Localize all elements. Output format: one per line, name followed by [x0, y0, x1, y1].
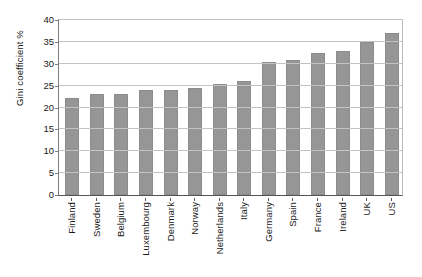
gridline [59, 150, 402, 151]
y-axis-tick-mark [55, 108, 58, 109]
y-axis-tick-label: 0 [14, 189, 54, 200]
x-label-slot: Belgium [108, 198, 133, 276]
gridline [59, 107, 402, 108]
x-label-slot: France [305, 198, 330, 276]
y-axis-tick-label: 15 [14, 123, 54, 134]
x-axis-tick-mark [391, 198, 392, 201]
bar [90, 94, 104, 195]
y-axis-tick-label: 10 [14, 145, 54, 156]
bar [65, 98, 79, 195]
y-axis-tick-mark [55, 173, 58, 174]
y-axis-tick-mark [55, 151, 58, 152]
bar [213, 84, 227, 195]
x-label-slot: Italy [231, 198, 256, 276]
x-axis-tick-mark [194, 198, 195, 201]
x-axis-tick-label: Belgium [115, 202, 126, 237]
y-axis-tick-mark [55, 195, 58, 196]
x-axis-tick-mark [145, 198, 146, 201]
bar [237, 81, 251, 195]
y-axis-tick-label: 25 [14, 80, 54, 91]
x-axis-tick-mark [366, 198, 367, 201]
x-axis-tick-label: Norway [189, 202, 200, 235]
bar [164, 90, 178, 195]
bar [311, 53, 325, 195]
x-label-slot: Sweden [84, 198, 109, 276]
x-axis-tick-mark [219, 198, 220, 201]
x-label-slot: Spain [280, 198, 305, 276]
x-label-slot: Ireland [329, 198, 354, 276]
x-axis-tick-label: Denmark [164, 202, 175, 241]
x-axis-tick-label: Germany [262, 202, 273, 242]
x-axis-tick-mark [96, 198, 97, 201]
x-label-slot: Finland [59, 198, 84, 276]
gridline [59, 41, 402, 42]
x-axis-tick-mark [342, 198, 343, 201]
y-axis-tick-label: 35 [14, 36, 54, 47]
x-axis-tick-label: Ireland [336, 202, 347, 232]
x-axis-tick-mark [292, 198, 293, 201]
y-axis-tick-label: 20 [14, 102, 54, 113]
x-axis-tick-mark [170, 198, 171, 201]
bar [114, 94, 128, 195]
x-axis-tick-mark [243, 198, 244, 201]
gridline [59, 85, 402, 86]
x-label-slot: UK [354, 198, 379, 276]
y-axis-tick-label: 5 [14, 167, 54, 178]
y-axis-tick-label: 40 [14, 14, 54, 25]
x-label-slot: Netherlands [206, 198, 231, 276]
x-axis-tick-mark [268, 198, 269, 201]
x-label-slot: US [379, 198, 404, 276]
x-axis-tick-label: Luxembourg [140, 202, 151, 256]
bar [336, 51, 350, 195]
gini-coefficient-bar-chart: Gini coefficient % 0510152025303540 Finl… [0, 0, 422, 277]
gridline [59, 19, 402, 20]
x-axis-tick-label: Netherlands [213, 202, 224, 254]
x-label-slot: Luxembourg [133, 198, 158, 276]
y-axis-tick-mark [55, 20, 58, 21]
x-label-slot: Germany [256, 198, 281, 276]
x-label-slot: Denmark [157, 198, 182, 276]
y-axis-tick-mark [55, 129, 58, 130]
y-axis-tick-mark [55, 42, 58, 43]
x-axis-tick-labels: FinlandSwedenBelgiumLuxembourgDenmarkNor… [59, 198, 403, 276]
x-axis-tick-label: Italy [238, 202, 249, 220]
x-axis-tick-label: France [312, 202, 323, 232]
x-axis-tick-label: US [385, 202, 396, 215]
bar [188, 88, 202, 195]
bar [385, 33, 399, 195]
gridline [59, 128, 402, 129]
x-axis-tick-label: Spain [287, 202, 298, 227]
gridline [59, 172, 402, 173]
x-axis-tick-label: Sweden [90, 202, 101, 237]
y-axis-tick-mark [55, 64, 58, 65]
x-label-slot: Norway [182, 198, 207, 276]
x-axis-tick-label: UK [361, 202, 372, 215]
y-axis-tick-label: 30 [14, 58, 54, 69]
x-axis-tick-mark [71, 198, 72, 201]
gridline [59, 63, 402, 64]
x-axis-tick-mark [317, 198, 318, 201]
plot-area [58, 19, 403, 196]
x-axis-tick-mark [120, 198, 121, 201]
y-axis-tick-mark [55, 86, 58, 87]
x-axis-tick-label: Finland [66, 202, 77, 234]
